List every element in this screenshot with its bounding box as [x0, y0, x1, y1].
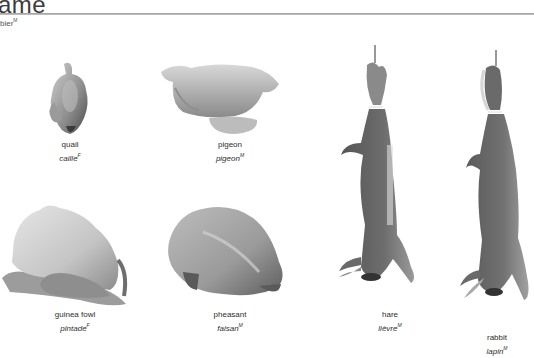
item-hare: hare lièvreM: [345, 310, 435, 334]
item-label-en: quail: [25, 140, 115, 150]
subtitle-gender: M: [13, 17, 17, 23]
item-label-fr: lapinM: [452, 343, 534, 357]
item-rabbit: rabbit lapinM: [452, 333, 534, 357]
quail-illustration: [40, 60, 100, 140]
item-label-fr: pintadeF: [30, 320, 120, 334]
page-subtitle: bierM: [0, 17, 18, 28]
item-pigeon: pigeon pigeonM: [185, 140, 275, 164]
item-label-en: guinea fowl: [30, 310, 120, 320]
pheasant-illustration: [163, 202, 293, 302]
item-label-en: rabbit: [452, 333, 534, 343]
subtitle-text: bier: [0, 19, 13, 28]
item-label-fr: faisanM: [185, 320, 275, 334]
item-label-en: hare: [345, 310, 435, 320]
guinea-fowl-illustration: [0, 200, 140, 310]
item-guinea-fowl: guinea fowl pintadeF: [30, 310, 120, 334]
item-label-en: pigeon: [185, 140, 275, 150]
item-label-fr: cailleF: [25, 150, 115, 164]
header-rule: [0, 13, 534, 15]
item-label-fr: lièvreM: [345, 320, 435, 334]
item-quail: quail cailleF: [25, 140, 115, 164]
rabbit-illustration: [458, 50, 534, 330]
item-pheasant: pheasant faisanM: [185, 310, 275, 334]
item-label-en: pheasant: [185, 310, 275, 320]
pigeon-illustration: [155, 58, 285, 138]
item-label-fr: pigeonM: [185, 150, 275, 164]
hare-illustration: [335, 45, 425, 307]
